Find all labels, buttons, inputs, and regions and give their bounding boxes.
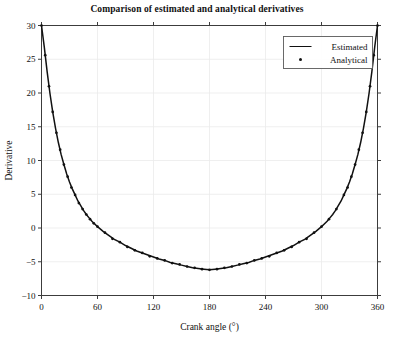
marker-analytical	[245, 262, 248, 265]
marker-analytical	[193, 266, 196, 269]
y-tick-label: 30	[27, 21, 37, 31]
marker-analytical	[238, 263, 241, 266]
marker-analytical	[223, 266, 226, 269]
y-tick-label: 25	[27, 54, 37, 64]
marker-analytical	[376, 24, 379, 27]
marker-analytical	[74, 194, 77, 197]
marker-analytical	[354, 163, 357, 166]
marker-analytical	[305, 237, 308, 240]
marker-analytical	[208, 269, 211, 272]
marker-analytical	[335, 208, 338, 211]
figure-container: Comparison of estimated and analytical d…	[0, 0, 394, 344]
marker-analytical	[216, 268, 219, 271]
y-axis-label: Derivative	[4, 140, 14, 180]
marker-analytical	[148, 255, 151, 258]
marker-analytical	[171, 262, 174, 265]
marker-analytical	[283, 249, 286, 252]
x-tick-label: 60	[93, 302, 103, 312]
marker-analytical	[350, 175, 353, 178]
marker-analytical	[81, 208, 84, 211]
marker-analytical	[119, 241, 122, 244]
y-tick-label: 0	[31, 223, 36, 233]
y-tick-label: −5	[26, 257, 36, 267]
marker-analytical	[320, 225, 323, 228]
marker-analytical	[63, 163, 66, 166]
marker-analytical	[178, 263, 181, 266]
x-tick-label: 300	[315, 302, 329, 312]
y-tick-label: 5	[31, 189, 36, 199]
marker-analytical	[51, 111, 54, 114]
marker-analytical	[346, 186, 349, 189]
marker-analytical	[313, 231, 316, 234]
marker-analytical	[92, 222, 95, 225]
marker-analytical	[126, 246, 129, 249]
x-tick-label: 360	[371, 302, 385, 312]
x-tick-label: 0	[39, 302, 44, 312]
x-tick-label: 180	[203, 302, 217, 312]
marker-analytical	[201, 268, 204, 271]
marker-analytical	[260, 257, 263, 260]
x-tick-label: 240	[259, 302, 273, 312]
marker-analytical	[40, 24, 43, 27]
marker-analytical	[357, 148, 360, 151]
legend-dot-swatch	[299, 58, 302, 61]
marker-analytical	[70, 186, 73, 189]
marker-analytical	[163, 259, 166, 262]
marker-analytical	[85, 213, 88, 216]
marker-analytical	[361, 131, 364, 134]
marker-analytical	[365, 111, 368, 114]
x-tick-labels: 060120180240300360	[39, 302, 385, 312]
marker-analytical	[133, 249, 136, 252]
marker-analytical	[48, 85, 51, 88]
marker-analytical	[328, 218, 331, 221]
marker-analytical	[55, 131, 58, 134]
legend-label-analytical: Analytical	[330, 55, 368, 65]
marker-analytical	[369, 85, 372, 88]
chart-canvas: 060120180240300360 −10−5051015202530 Cra…	[0, 0, 394, 344]
marker-analytical	[231, 265, 234, 268]
marker-analytical	[141, 252, 144, 255]
marker-analytical	[66, 175, 69, 178]
x-axis-label: Crank angle (°)	[180, 322, 239, 333]
marker-analytical	[253, 259, 256, 262]
x-tick-label: 120	[147, 302, 161, 312]
marker-analytical	[343, 194, 346, 197]
marker-analytical	[59, 148, 62, 151]
marker-analytical	[89, 218, 92, 221]
marker-analytical	[77, 202, 80, 205]
y-tick-label: 15	[27, 122, 37, 132]
chart-legend[interactable]: Estimated Analytical	[284, 37, 373, 69]
marker-analytical	[298, 241, 301, 244]
y-tick-label: −10	[21, 291, 36, 301]
marker-analytical	[96, 225, 99, 228]
marker-analytical	[156, 257, 159, 260]
marker-analytical	[104, 231, 107, 234]
y-tick-label: 10	[27, 156, 37, 166]
marker-analytical	[186, 265, 189, 268]
y-tick-labels: −10−5051015202530	[21, 21, 36, 301]
marker-analytical	[111, 237, 114, 240]
legend-label-estimated: Estimated	[332, 42, 368, 52]
marker-analytical	[290, 246, 293, 249]
marker-analytical	[275, 252, 278, 255]
marker-analytical	[44, 54, 47, 57]
marker-analytical	[268, 255, 271, 258]
y-tick-label: 20	[27, 88, 37, 98]
